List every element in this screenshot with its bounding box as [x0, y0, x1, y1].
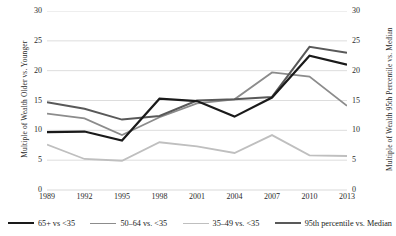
series-line: [47, 135, 347, 161]
x-tick-label: 2013: [327, 192, 367, 201]
y-tick-label: 15: [20, 96, 42, 106]
line-chart: Multiple of Wealth Older vs. Younger Mul…: [0, 0, 396, 236]
x-tick-label: 2010: [290, 192, 330, 201]
legend-item[interactable]: 95th percentile vs. Median: [275, 219, 392, 228]
legend-item[interactable]: 50–64 vs. <35: [90, 219, 167, 228]
y-tick-label: 10: [352, 125, 374, 135]
legend-label: 50–64 vs. <35: [120, 219, 167, 228]
legend-item[interactable]: 65+ vs <35: [8, 219, 75, 228]
y-tick-label: 25: [352, 36, 374, 46]
series-line: [47, 47, 347, 120]
x-tick-label: 1989: [27, 192, 67, 201]
y-axis-left-ticks: 051015202530: [20, 0, 42, 200]
legend-swatch: [90, 223, 116, 224]
x-tick-label: 1995: [102, 192, 142, 201]
y-axis-right-ticks: 051015202530: [352, 0, 374, 200]
y-tick-label: 5: [352, 155, 374, 165]
legend-label: 65+ vs <35: [38, 219, 75, 228]
y-tick-label: 15: [352, 96, 374, 106]
series-line: [47, 56, 347, 141]
legend-swatch: [275, 222, 301, 224]
plot-svg: [47, 11, 347, 191]
y-tick-label: 30: [20, 6, 42, 16]
legend-item[interactable]: 35–49 vs. <35: [183, 219, 260, 228]
x-tick-label: 2007: [252, 192, 292, 201]
legend-swatch: [8, 222, 34, 224]
y-tick-label: 5: [20, 155, 42, 165]
x-tick-label: 2004: [215, 192, 255, 201]
y-tick-label: 25: [20, 36, 42, 46]
y-tick-label: 20: [20, 66, 42, 76]
series-line: [47, 72, 347, 135]
legend-swatch: [183, 223, 209, 224]
legend-label: 95th percentile vs. Median: [305, 219, 392, 228]
x-tick-label: 1998: [140, 192, 180, 201]
x-axis-ticks: 198919921995199820012004200720102013: [47, 190, 347, 206]
plot-area: [47, 11, 347, 190]
x-tick-label: 2001: [177, 192, 217, 201]
y-tick-label: 10: [20, 125, 42, 135]
chart-legend: 65+ vs <3550–64 vs. <3535–49 vs. <3595th…: [8, 214, 392, 232]
y-tick-label: 20: [352, 66, 374, 76]
y-tick-label: 30: [352, 6, 374, 16]
x-tick-label: 1992: [65, 192, 105, 201]
y-axis-right-title: Multiple of Wealth 95th Percentile vs. M…: [386, 14, 394, 184]
legend-label: 35–49 vs. <35: [213, 219, 260, 228]
